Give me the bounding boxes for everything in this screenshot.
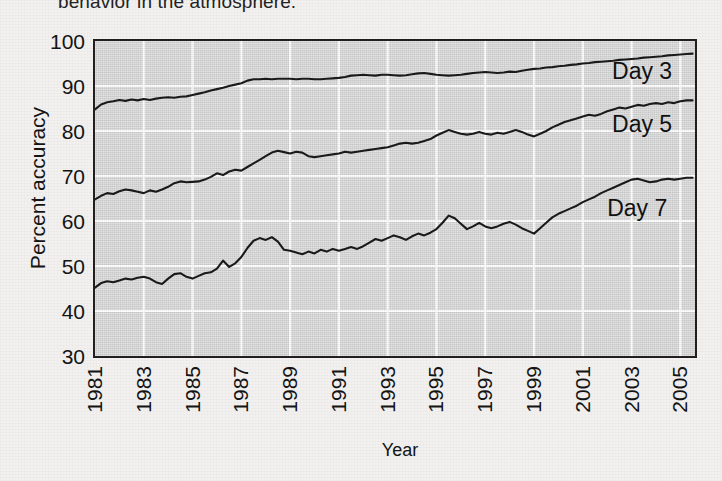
x-tick-label-text: 2005 <box>669 366 691 413</box>
x-tick-label-text: 1999 <box>523 366 545 413</box>
x-tick-label-text: 1981 <box>84 366 106 413</box>
x-tick-label-text: 1995 <box>425 366 447 413</box>
x-tick-label: 1997 <box>474 366 496 440</box>
x-tick-label-text: 2003 <box>621 366 643 413</box>
series-label-day-3: Day 3 <box>612 60 672 83</box>
x-tick-label-text: 2001 <box>572 366 594 413</box>
y-tick-label: 100 <box>5 31 85 52</box>
x-tick-label-text: 1989 <box>279 366 301 413</box>
x-tick-label: 1999 <box>523 366 545 440</box>
caption-fragment: behavior in the atmosphere. <box>58 0 296 13</box>
x-tick-label: 2001 <box>572 366 594 440</box>
series-label-day-7: Day 7 <box>607 197 667 220</box>
series-label-day-5: Day 5 <box>612 113 672 136</box>
x-tick-label-text: 1993 <box>377 366 399 413</box>
x-tick-label-text: 1987 <box>230 366 252 413</box>
x-tick-label: 1983 <box>133 366 155 440</box>
x-axis-title-text: Year <box>382 440 418 460</box>
x-tick-label-text: 1983 <box>133 366 155 413</box>
x-tick-label-text: 1997 <box>474 366 496 413</box>
x-tick-label: 1991 <box>328 366 350 440</box>
x-tick-label: 1993 <box>377 366 399 440</box>
x-tick-label-text: 1991 <box>328 366 350 413</box>
y-tick-label: 30 <box>5 346 85 367</box>
x-tick-label: 1987 <box>230 366 252 440</box>
forecast-accuracy-figure: 30405060708090100 Percent accuracy 19811… <box>0 0 722 481</box>
x-tick-label-text: 1985 <box>182 366 204 413</box>
x-tick-label: 2003 <box>621 366 643 440</box>
x-axis-title: Year <box>0 440 722 461</box>
x-tick-label: 1989 <box>279 366 301 440</box>
x-tick-label: 1995 <box>425 366 447 440</box>
x-tick-label: 1985 <box>182 366 204 440</box>
x-tick-label: 1981 <box>84 366 106 440</box>
y-axis-title: Percent accuracy <box>26 68 50 308</box>
x-tick-label: 2005 <box>669 366 691 440</box>
